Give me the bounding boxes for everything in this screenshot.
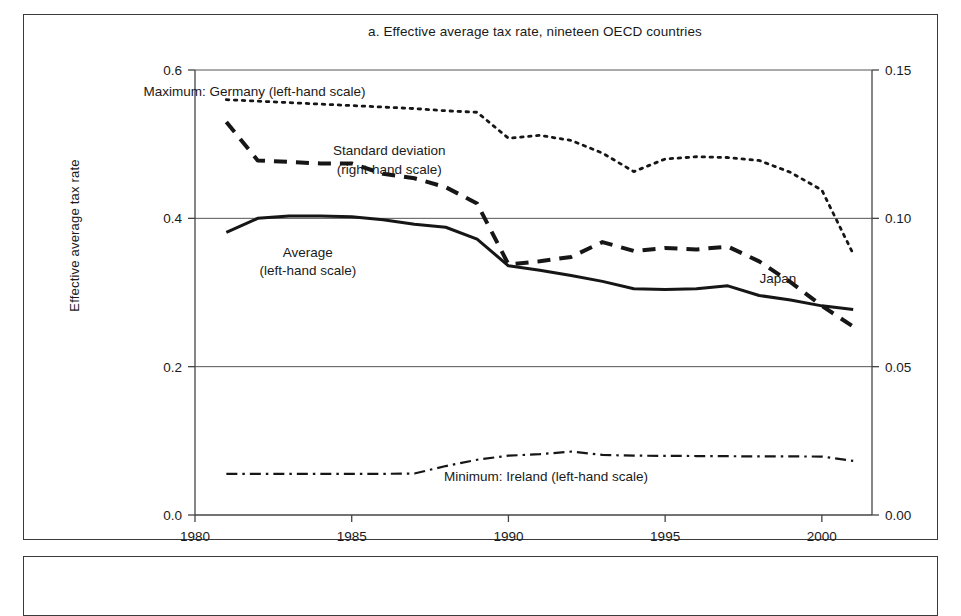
annotation-0: Maximum: Germany (left-hand scale) <box>144 84 366 99</box>
y-ticklabel-right-1: 0.05 <box>885 360 911 375</box>
x-ticklabel-3: 1995 <box>650 529 680 544</box>
x-ticklabel-0: 1980 <box>180 529 210 544</box>
x-ticklabel-1: 1985 <box>337 529 367 544</box>
y-ticklabel-right-3: 0.15 <box>885 63 911 78</box>
y-ticklabel-left-1: 0.2 <box>163 360 182 375</box>
annotation-4: (left-hand scale) <box>259 263 356 278</box>
annotation-2: (right-hand scale) <box>337 162 442 177</box>
annotation-5: Japan <box>760 271 797 286</box>
series-line-0 <box>226 100 853 254</box>
y-ticklabel-left-0: 0.0 <box>163 508 182 523</box>
x-ticklabel-2: 1990 <box>493 529 523 544</box>
y-ticklabel-left-2: 0.4 <box>163 211 182 226</box>
x-ticklabel-4: 2000 <box>807 529 837 544</box>
annotation-1: Standard deviation <box>333 143 446 158</box>
y-ticklabel-right-2: 0.10 <box>885 211 911 226</box>
y-ticklabel-right-0: 0.00 <box>885 508 911 523</box>
annotation-3: Average <box>283 245 333 260</box>
annotation-6: Minimum: Ireland (left-hand scale) <box>444 469 648 484</box>
y-ticklabel-left-3: 0.6 <box>163 63 182 78</box>
